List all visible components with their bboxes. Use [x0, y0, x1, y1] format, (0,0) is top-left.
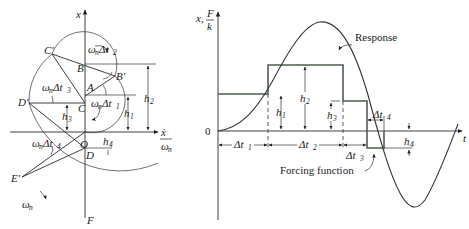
svg-text:Δt: Δt [233, 138, 244, 150]
svg-text:4: 4 [410, 140, 414, 149]
angle-label-t4: ω n Δt 4 [32, 137, 61, 151]
y-axis-label: x, F k [195, 7, 214, 32]
svg-text:Δt: Δt [298, 138, 309, 150]
svg-text:2: 2 [150, 97, 154, 106]
point-A: A [86, 81, 94, 93]
svg-text:Δt: Δt [98, 43, 109, 55]
height-label-h1-right: h 1 [276, 106, 286, 120]
height-label-h2-right: h 2 [298, 92, 312, 106]
line-Eprime-D [22, 148, 85, 177]
origin-label: 0 [205, 125, 211, 137]
point-Bprime: B′ [116, 70, 126, 82]
svg-text:4: 4 [387, 113, 391, 122]
svg-text:Δt: Δt [42, 137, 53, 149]
svg-text:3: 3 [359, 154, 364, 163]
phase-plane-diagram: x ẋ ω n [10, 8, 172, 226]
interval-label-dt4: Δt 4 [372, 108, 391, 122]
point-Cprime: C′ [44, 44, 54, 56]
time-response-diagram: x, F k t 0 Δt 1 [195, 7, 467, 220]
height-label-h4: h 4 [103, 135, 113, 149]
point-Dprime: D′ [17, 96, 29, 108]
height-label-h1: h 1 [124, 107, 134, 121]
interval-label-dt1: Δt 1 [232, 137, 254, 152]
point-C: C [78, 102, 86, 114]
x-axis-label: x [75, 8, 81, 20]
forcing-leader [365, 154, 374, 171]
svg-text:ẋ: ẋ [160, 126, 166, 138]
svg-text:2: 2 [113, 48, 117, 57]
svg-text:n: n [29, 203, 33, 212]
angle-label-t2: ω n Δt 2 [88, 43, 117, 57]
svg-text:3: 3 [67, 115, 72, 124]
height-label-h3-right: h 3 [325, 109, 339, 123]
forcing-function-label: Forcing function [280, 164, 354, 176]
rotation-label: ω n [22, 198, 33, 212]
rotation-arrow [40, 191, 46, 199]
figure-canvas: x ẋ ω n [0, 0, 469, 229]
forcing-function-steps [218, 65, 384, 148]
svg-text:x,: x, [195, 12, 204, 24]
svg-text:1: 1 [248, 143, 252, 152]
point-F: F [86, 214, 94, 226]
svg-text:Δt: Δt [372, 108, 383, 120]
svg-text:3: 3 [332, 114, 337, 123]
svg-text:Δt: Δt [101, 97, 112, 109]
interval-label-dt2: Δt 2 [297, 137, 319, 152]
svg-text:3: 3 [66, 86, 71, 95]
svg-text:4: 4 [57, 142, 61, 151]
svg-text:F: F [206, 7, 214, 19]
svg-text:1: 1 [282, 111, 286, 120]
arc-Cprime-to-Dprime [29, 54, 52, 103]
svg-text:4: 4 [109, 140, 113, 149]
svg-text:Δt: Δt [52, 81, 63, 93]
point-B: B [77, 62, 84, 74]
svg-text:1: 1 [116, 102, 120, 111]
height-label-h3: h 3 [62, 110, 72, 124]
point-Eprime: E′ [10, 172, 21, 184]
svg-text:Δt: Δt [345, 149, 356, 161]
angle-arc-t3 [52, 96, 53, 103]
angle-label-t1: ω n Δt 1 [91, 97, 120, 111]
svg-text:n: n [168, 145, 172, 154]
height-label-h2: h 2 [144, 92, 154, 106]
angle-arc-t1 [103, 85, 106, 95]
velocity-axis-label: ẋ ω n [160, 126, 172, 154]
svg-text:2: 2 [313, 143, 317, 152]
time-axis-label: t [463, 132, 467, 144]
response-label: Response [355, 31, 397, 43]
point-D: D [85, 149, 94, 161]
svg-text:k: k [207, 20, 213, 32]
svg-text:2: 2 [306, 97, 310, 106]
angle-label-t3: ω n Δt 3 [42, 81, 71, 95]
height-label-h4-right: h 4 [404, 135, 414, 149]
interval-label-dt3: Δt 3 [345, 149, 364, 163]
svg-text:1: 1 [130, 112, 134, 121]
